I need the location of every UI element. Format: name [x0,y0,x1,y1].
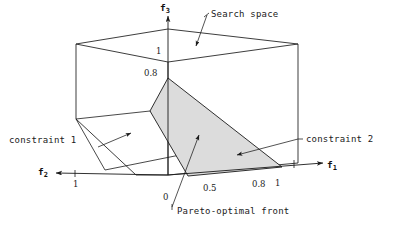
f2-axis-line [56,173,168,175]
f2-axis [56,173,168,175]
tick-label-f3-top: 1 [156,47,161,56]
tick-label-f1-max: 1 [275,179,280,188]
callout-constraint-1: constraint 1 [9,136,76,145]
callout-constraint-2: constraint 2 [306,135,373,144]
tick-label-origin: 0 [163,193,168,202]
diagram-figure: f3 f1 f2 0 1 0.8 0.5 0.8 1 1 Search spac… [0,0,394,225]
search-space-callout [196,13,209,46]
pareto-front-shaded-polygon [150,78,282,176]
constraint-1-arrow [98,133,131,147]
constraint-1-callout [98,133,131,147]
callout-search-space: Search space [211,10,278,19]
cube-top-face [76,29,298,62]
search-space-arrow [196,15,207,46]
tick-label-f3-front: 0.8 [144,69,158,78]
callout-pareto-front: Pareto-optimal front [177,207,289,216]
tick-label-f2-max: 1 [73,180,78,189]
pareto-optimal-front-surface [150,78,282,176]
tick-label-f1-front: 0.8 [252,180,266,189]
diagram-canvas [0,0,394,225]
axis-label-f1: f1 [327,160,337,172]
axis-label-f3: f3 [160,3,170,15]
tick-label-f1-mid: 0.5 [203,184,217,193]
axis-label-f2: f2 [38,167,48,179]
cube-bottom-left-edge [76,119,136,175]
